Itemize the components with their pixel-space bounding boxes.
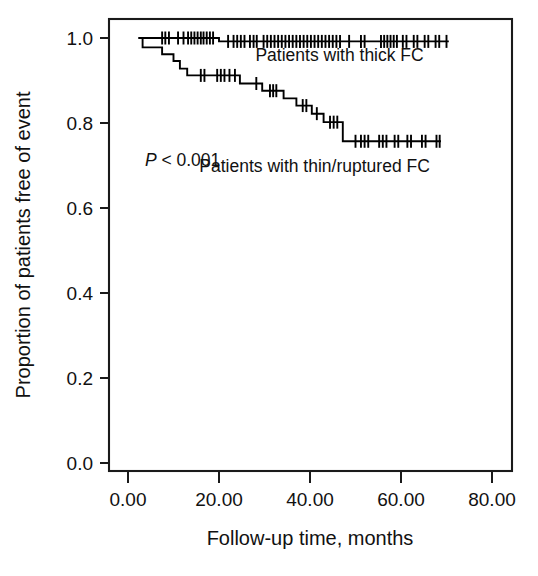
y-tick-label: 0.2 (67, 368, 93, 389)
y-tick-label: 0.0 (67, 453, 93, 474)
y-axis-title: Proportion of patients free of event (12, 91, 34, 398)
x-tick-label: 40.00 (286, 489, 334, 510)
thick-fc-label: Patients with thick FC (255, 45, 423, 65)
km-survival-chart: 0.00.20.40.60.81.0 0.0020.0040.0060.0080… (0, 0, 538, 576)
y-tick-label: 1.0 (67, 28, 93, 49)
thin-fc-label: Patients with thin/ruptured FC (199, 156, 430, 176)
kaplan-meier-figure: 0.00.20.40.60.81.0 0.0020.0040.0060.0080… (0, 0, 538, 576)
plot-border (109, 19, 512, 471)
y-tick-label: 0.8 (67, 113, 93, 134)
y-tick-label: 0.6 (67, 198, 93, 219)
x-tick-label: 80.00 (468, 489, 516, 510)
chart-annotations: P < 0.001Patients with thick FCPatients … (145, 45, 430, 176)
x-tick-label: 60.00 (377, 489, 425, 510)
y-axis-ticks: 0.00.20.40.60.81.0 (67, 28, 109, 474)
x-axis-title: Follow-up time, months (207, 527, 414, 549)
x-tick-label: 0.00 (110, 489, 147, 510)
x-tick-label: 20.00 (195, 489, 243, 510)
y-tick-label: 0.4 (67, 283, 94, 304)
plot-frame (109, 19, 512, 471)
x-axis-ticks: 0.0020.0040.0060.0080.00 (110, 471, 516, 510)
